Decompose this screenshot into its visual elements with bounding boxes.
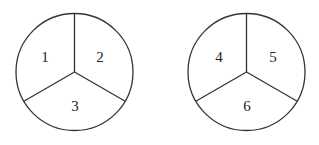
sector-label-5: 5 xyxy=(269,49,277,65)
spinners-diagram: 1 2 3 4 5 6 xyxy=(0,0,319,145)
spinner-2: 4 5 6 xyxy=(188,14,305,131)
spinner-1-divider-left xyxy=(24,72,75,101)
spinner-2-divider-right xyxy=(247,72,298,101)
sector-label-1: 1 xyxy=(41,49,49,65)
spinner-1-divider-right xyxy=(75,72,126,101)
sector-label-6: 6 xyxy=(243,98,251,114)
sector-label-4: 4 xyxy=(215,49,223,65)
sector-label-3: 3 xyxy=(71,98,79,114)
sector-label-2: 2 xyxy=(96,49,104,65)
spinner-2-divider-left xyxy=(196,72,247,101)
spinner-1: 1 2 3 xyxy=(16,14,133,131)
